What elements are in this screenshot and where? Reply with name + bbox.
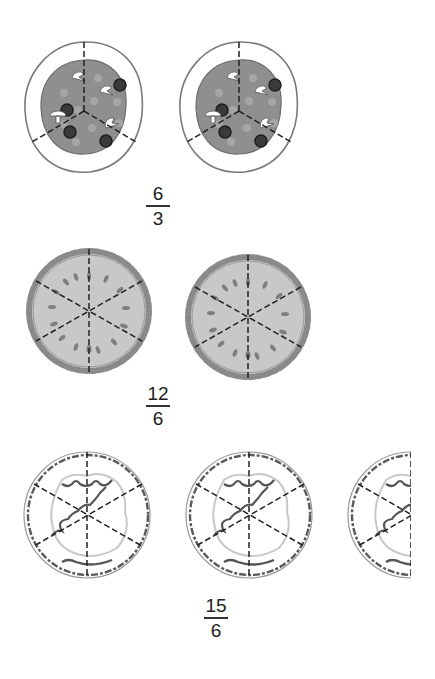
- fraction-bar: [204, 617, 228, 619]
- pie-1: [26, 244, 154, 380]
- fraction-numerator: 15: [201, 596, 231, 615]
- fraction-bar: [146, 405, 170, 407]
- fraction-denominator: 3: [143, 209, 173, 228]
- fraction-quiche: 15 6: [201, 596, 231, 640]
- fraction-pizza: 6 3: [143, 184, 173, 228]
- pizza-2: [177, 38, 301, 176]
- fraction-bar: [146, 205, 170, 207]
- quiche-half: [346, 448, 412, 586]
- quiche-1: [22, 448, 156, 586]
- pizza-1: [22, 38, 146, 176]
- fraction-numerator: 12: [143, 384, 173, 403]
- quiche-2: [184, 448, 318, 586]
- pie-2: [185, 250, 313, 386]
- fraction-denominator: 6: [201, 621, 231, 640]
- fraction-numerator: 6: [143, 184, 173, 203]
- fraction-pie: 12 6: [143, 384, 173, 428]
- fraction-denominator: 6: [143, 409, 173, 428]
